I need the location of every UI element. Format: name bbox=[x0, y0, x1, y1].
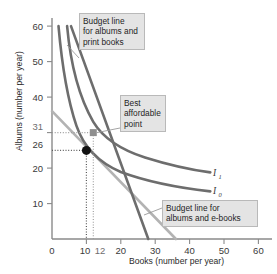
y-tick-label-31: 31 bbox=[32, 121, 43, 132]
y-tick-label-60: 60 bbox=[32, 21, 43, 32]
callout-budget-line-ebooks: Budget line for albums and e-books bbox=[162, 200, 258, 227]
y-tick-label-26: 26 bbox=[32, 139, 43, 150]
x-tick-label-10: 10 bbox=[80, 245, 91, 256]
x-ticks-group: 0 10 12 20 30 40 50 60 bbox=[49, 239, 263, 256]
y-tick-label-10: 10 bbox=[32, 198, 43, 209]
callout-best-affordable-point: Best affordable point bbox=[120, 95, 166, 132]
curve-label-i1-group: I 1 bbox=[212, 168, 222, 180]
best-affordable-point-marker-ebook bbox=[82, 146, 91, 155]
y-axis-title: Albums (number per year) bbox=[14, 41, 24, 161]
x-tick-label-12: 12 bbox=[95, 245, 106, 256]
curve-label-i1: I bbox=[212, 168, 217, 178]
y-tick-label-20: 20 bbox=[32, 163, 43, 174]
chart-figure: 60 50 40 31 26 20 10 0 10 12 20 30 40 50… bbox=[0, 0, 277, 274]
y-tick-label-40: 40 bbox=[32, 92, 43, 103]
curve-label-i0-group: I 0 bbox=[212, 186, 223, 198]
x-tick-label-30: 30 bbox=[150, 245, 161, 256]
y-ticks-group: 60 50 40 31 26 20 10 bbox=[32, 21, 52, 210]
x-tick-label-40: 40 bbox=[184, 245, 195, 256]
curve-label-i1-subscript: 1 bbox=[219, 173, 222, 180]
x-tick-label-0: 0 bbox=[49, 245, 54, 256]
x-axis-title: Books (number per year) bbox=[129, 256, 224, 266]
best-affordable-point-marker-print bbox=[90, 129, 97, 136]
x-tick-label-50: 50 bbox=[219, 245, 230, 256]
callout-budget-line-print-books: Budget line for albums and print books bbox=[79, 13, 145, 50]
x-tick-label-20: 20 bbox=[116, 245, 127, 256]
y-tick-label-50: 50 bbox=[32, 56, 43, 67]
x-tick-label-60: 60 bbox=[253, 245, 264, 256]
curve-label-i0: I bbox=[212, 186, 217, 196]
curve-label-i0-subscript: 0 bbox=[219, 191, 223, 198]
